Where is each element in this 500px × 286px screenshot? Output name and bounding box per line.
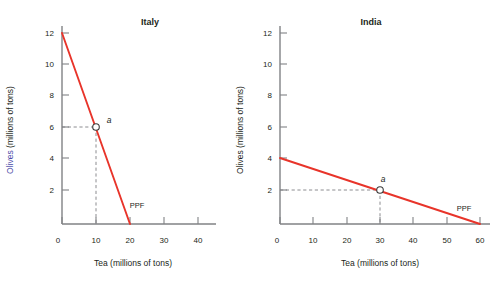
x-tick-label: 50 [443, 236, 452, 245]
svg-text:Olives (millions of tons): Olives (millions of tons) [235, 86, 245, 174]
y-axis-title-italy: Olives (millions of tons) [5, 86, 15, 174]
curve-label-ppf-india: PPF [457, 204, 472, 213]
x-tick-label: 30 [376, 236, 385, 245]
y-tick-label: 6 [268, 123, 273, 132]
y-tick-label: 4 [50, 154, 55, 163]
point-marker-a-india [377, 187, 384, 194]
y-tick-label: 2 [268, 186, 273, 195]
y-axis-title-rest-italy: (millions of tons) [5, 86, 15, 150]
y-tick-label: 12 [45, 29, 54, 38]
x-tick-label: 0 [56, 236, 61, 245]
point-label-a-italy: a [107, 115, 112, 125]
panel-title-india: India [360, 17, 382, 27]
y-tick-label: 8 [268, 91, 273, 100]
x-tick-label: 20 [126, 236, 135, 245]
figure-background [0, 0, 500, 286]
x-axis-title-india: Tea (millions of tons) [341, 258, 419, 268]
x-tick-label: 30 [160, 236, 169, 245]
ppf-figure: Italy Olives (millions of tons) 12 10 8 … [0, 0, 500, 286]
y-axis-title-accent-italy: Olives [5, 150, 15, 174]
y-tick-label: 4 [268, 154, 273, 163]
y-axis-title-india-text: Olives (millions of tons) [235, 86, 245, 174]
x-axis-title-italy: Tea (millions of tons) [94, 258, 172, 268]
svg-text:Olives (millions of tons): Olives (millions of tons) [5, 86, 15, 174]
point-label-a-india: a [381, 174, 386, 184]
y-tick-label: 10 [263, 60, 272, 69]
y-axis-title-india: Olives (millions of tons) [235, 86, 245, 174]
x-tick-label: 60 [476, 236, 485, 245]
y-tick-label: 10 [45, 60, 54, 69]
y-tick-label: 2 [50, 186, 55, 195]
x-tick-label: 10 [309, 236, 318, 245]
y-tick-label: 6 [50, 123, 55, 132]
x-tick-label: 40 [409, 236, 418, 245]
y-tick-label: 8 [50, 91, 55, 100]
point-marker-a-italy [93, 124, 100, 131]
y-tick-label: 12 [263, 29, 272, 38]
x-tick-label: 20 [343, 236, 352, 245]
x-tick-label: 40 [194, 236, 203, 245]
x-tick-label: 0 [275, 236, 280, 245]
curve-label-ppf-italy: PPF [130, 201, 145, 210]
x-tick-label: 10 [92, 236, 101, 245]
panel-title-italy: Italy [141, 17, 159, 27]
